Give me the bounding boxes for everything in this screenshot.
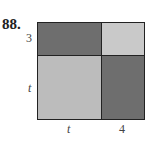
region-top-left xyxy=(38,23,102,56)
problem-number: 88. xyxy=(2,16,21,33)
label-left-top: 3 xyxy=(26,31,32,46)
region-top-right xyxy=(102,23,144,56)
label-bottom-right: 4 xyxy=(119,122,125,137)
square-diagram xyxy=(37,22,145,120)
region-bottom-left xyxy=(38,56,102,119)
label-left-bottom: t xyxy=(28,81,31,96)
label-bottom-left: t xyxy=(67,122,70,137)
region-bottom-right xyxy=(102,56,144,119)
